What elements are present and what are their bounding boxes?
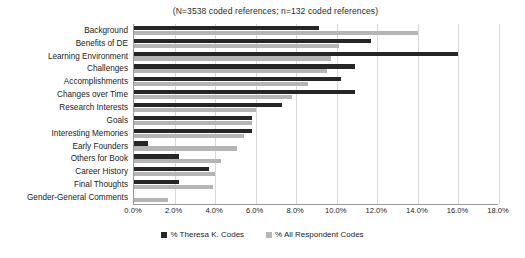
bar-row — [134, 179, 498, 190]
category-label: Career History — [75, 167, 128, 176]
value-tick-label: 16.0% — [447, 206, 469, 215]
value-tick-label: 4.0% — [205, 206, 222, 215]
bar-all-respondents — [134, 56, 331, 60]
bar-row — [134, 154, 498, 165]
bar-theresa — [134, 167, 209, 171]
bar-theresa — [134, 39, 371, 43]
value-tick-label: 8.0% — [287, 206, 304, 215]
bar-theresa — [134, 154, 179, 158]
legend-label: % Theresa K. Codes — [170, 230, 244, 239]
bar-all-respondents — [134, 172, 215, 176]
value-tick-label: 6.0% — [246, 206, 263, 215]
legend-swatch-icon — [266, 232, 272, 238]
bar-row — [134, 102, 498, 113]
chart-legend: % Theresa K. Codes % All Respondent Code… — [0, 230, 525, 239]
bar-row — [134, 166, 498, 177]
value-axis-labels: 0.0%2.0%4.0%6.0%8.0%10.0%12.0%14.0%16.0%… — [133, 206, 498, 218]
plot-area — [133, 24, 498, 204]
bar-row — [134, 64, 498, 75]
chart-title: (N=3538 coded references; n=132 coded re… — [0, 6, 525, 16]
category-label: Background — [84, 26, 128, 35]
bar-all-respondents — [134, 198, 168, 202]
bar-row — [134, 128, 498, 139]
bar-chart: (N=3538 coded references; n=132 coded re… — [0, 0, 525, 258]
bar-theresa — [134, 90, 355, 94]
bar-row — [134, 141, 498, 152]
category-label: Accomplishments — [64, 77, 128, 86]
legend-label: % All Respondent Codes — [275, 230, 364, 239]
bar-theresa — [134, 116, 252, 120]
bar-row — [134, 77, 498, 88]
bar-row — [134, 38, 498, 49]
value-tick-label: 2.0% — [165, 206, 182, 215]
bar-rows — [134, 24, 498, 204]
bar-theresa — [134, 129, 252, 133]
bar-row — [134, 25, 498, 36]
bar-all-respondents — [134, 159, 221, 163]
category-label: Research Interests — [59, 103, 128, 112]
category-label: Benefits of DE — [76, 39, 128, 48]
value-tick-label: 0.0% — [124, 206, 141, 215]
category-label: Changes over Time — [57, 90, 128, 99]
value-tick-label: 12.0% — [366, 206, 388, 215]
bar-all-respondents — [134, 134, 244, 138]
category-label: Challenges — [87, 64, 128, 73]
category-label: Early Founders — [72, 142, 128, 151]
bar-all-respondents — [134, 31, 418, 35]
category-label: Goals — [107, 116, 128, 125]
bar-all-respondents — [134, 82, 308, 86]
bar-row — [134, 51, 498, 62]
bar-theresa — [134, 141, 148, 145]
value-tick-label: 10.0% — [325, 206, 347, 215]
bar-row — [134, 192, 498, 203]
value-tick-label: 18.0% — [487, 206, 509, 215]
bar-all-respondents — [134, 44, 339, 48]
value-tick-label: 14.0% — [406, 206, 428, 215]
bar-all-respondents — [134, 69, 327, 73]
bar-theresa — [134, 103, 282, 107]
legend-item-all-respondents: % All Respondent Codes — [266, 230, 364, 239]
category-label: Final Thoughts — [74, 180, 128, 189]
category-label: Others for Book — [71, 154, 128, 163]
category-label: Learning Environment — [48, 52, 128, 61]
category-label: Gender-General Comments — [27, 193, 128, 202]
bar-theresa — [134, 26, 319, 30]
bar-all-respondents — [134, 121, 252, 125]
legend-item-theresa: % Theresa K. Codes — [161, 230, 244, 239]
bar-all-respondents — [134, 185, 213, 189]
bar-theresa — [134, 77, 341, 81]
legend-swatch-icon — [161, 232, 167, 238]
bar-all-respondents — [134, 108, 256, 112]
bar-all-respondents — [134, 95, 292, 99]
bar-theresa — [134, 180, 179, 184]
bar-theresa — [134, 52, 458, 56]
bar-theresa — [134, 64, 355, 68]
gridline — [499, 24, 500, 204]
bar-row — [134, 115, 498, 126]
category-label: Interesting Memories — [52, 129, 128, 138]
plot-wrapper: Background Benefits of DE Learning Envir… — [0, 24, 525, 204]
value-axis-line — [133, 204, 498, 205]
category-axis-labels: Background Benefits of DE Learning Envir… — [0, 24, 131, 204]
bar-row — [134, 89, 498, 100]
bar-all-respondents — [134, 146, 237, 150]
